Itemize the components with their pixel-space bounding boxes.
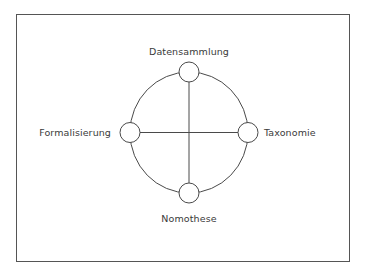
diagram-canvas: Datensammlung Taxonomie Nomothese Formal… xyxy=(0,0,367,277)
label-nomothese: Nomothese xyxy=(161,213,216,224)
node-datensammlung xyxy=(179,62,199,82)
node-nomothese xyxy=(179,183,199,203)
cycle-diagram: Datensammlung Taxonomie Nomothese Formal… xyxy=(0,0,367,277)
node-formalisierung xyxy=(120,123,140,143)
label-datensammlung: Datensammlung xyxy=(149,46,229,57)
label-taxonomie: Taxonomie xyxy=(263,127,316,138)
node-taxonomie xyxy=(238,123,258,143)
label-formalisierung: Formalisierung xyxy=(39,127,111,138)
